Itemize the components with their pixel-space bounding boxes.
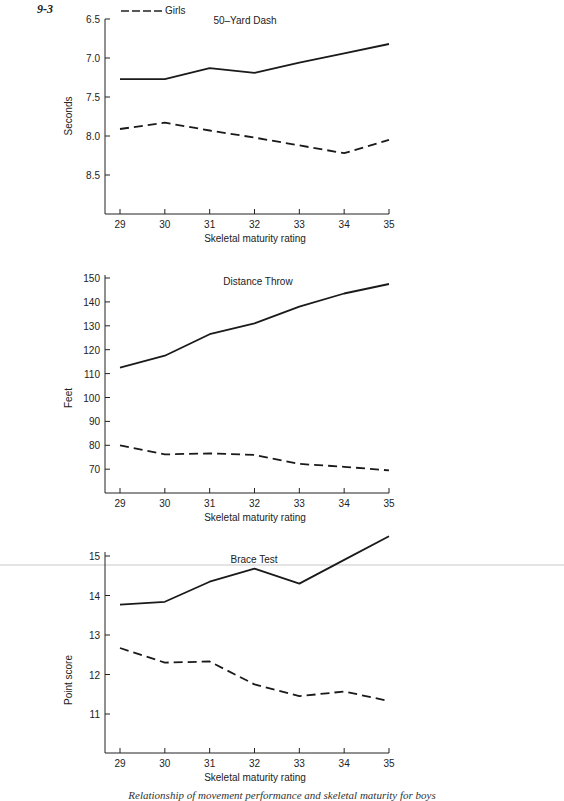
x-tick-label: 30 — [159, 498, 171, 509]
y-tick-label: 11 — [90, 709, 101, 720]
x-tick-label: 33 — [294, 219, 306, 230]
legend-girls-label: Girls — [165, 5, 186, 16]
x-axis-label: Skeletal maturity rating — [204, 512, 306, 523]
x-tick-label: 34 — [339, 219, 351, 230]
x-tick-label: 29 — [114, 758, 126, 769]
chart-3: 293031323334351514131211Brace TestSkelet… — [63, 536, 395, 783]
y-tick-label: 100 — [83, 393, 100, 404]
x-axis-label: Skeletal maturity rating — [204, 772, 306, 783]
y-tick-label: 120 — [83, 345, 100, 356]
y-tick-label: 90 — [89, 416, 101, 427]
x-tick-label: 31 — [204, 758, 216, 769]
chart-1: 293031323334356.57.07.58.08.550–Yard Das… — [63, 14, 395, 244]
y-axis-label: Point score — [63, 655, 74, 705]
legend: Girls — [121, 5, 186, 16]
y-axis-label: Seconds — [63, 97, 74, 136]
x-tick-label: 35 — [383, 758, 395, 769]
x-tick-label: 35 — [383, 219, 395, 230]
y-tick-label: 15 — [89, 551, 101, 562]
series-girls-line — [120, 445, 389, 470]
y-tick-label: 110 — [84, 369, 100, 380]
y-tick-label: 7.0 — [86, 53, 100, 64]
y-tick-label: 140 — [83, 297, 100, 308]
series-girls-line — [120, 123, 389, 154]
x-tick-label: 29 — [114, 219, 126, 230]
x-tick-label: 31 — [204, 498, 216, 509]
x-tick-label: 29 — [114, 498, 126, 509]
x-tick-label: 33 — [294, 758, 306, 769]
x-tick-label: 30 — [159, 758, 171, 769]
y-tick-label: 7.5 — [86, 92, 100, 103]
chart-title: 50–Yard Dash — [213, 15, 276, 26]
x-tick-label: 31 — [204, 219, 216, 230]
chart-2: 29303132333435150140130120110100908070Di… — [63, 273, 395, 523]
y-tick-label: 14 — [89, 591, 101, 602]
series-boys-line — [120, 44, 389, 79]
figure-caption: Relationship of movement performance and… — [0, 789, 564, 801]
y-tick-label: 12 — [89, 670, 101, 681]
y-axis-label: Feet — [63, 388, 74, 408]
x-tick-label: 34 — [339, 758, 351, 769]
x-tick-label: 32 — [249, 498, 261, 509]
y-tick-label: 70 — [89, 464, 101, 475]
x-axis-label: Skeletal maturity rating — [204, 233, 306, 244]
x-tick-label: 30 — [159, 219, 171, 230]
chart-title: Distance Throw — [223, 276, 293, 287]
y-tick-label: 8.0 — [86, 131, 100, 142]
chart-title: Brace Test — [230, 554, 277, 565]
x-tick-label: 35 — [383, 498, 395, 509]
x-tick-label: 32 — [249, 758, 261, 769]
series-girls-line — [120, 648, 389, 701]
y-tick-label: 13 — [89, 630, 101, 641]
x-tick-label: 34 — [339, 498, 351, 509]
y-tick-label: 130 — [83, 321, 100, 332]
x-tick-label: 32 — [249, 219, 261, 230]
y-tick-label: 6.5 — [86, 14, 100, 25]
y-tick-label: 150 — [83, 273, 100, 284]
series-boys-line — [120, 536, 389, 604]
y-tick-label: 80 — [89, 440, 101, 451]
y-tick-label: 8.5 — [86, 170, 100, 181]
series-boys-line — [120, 284, 389, 368]
x-tick-label: 33 — [294, 498, 306, 509]
